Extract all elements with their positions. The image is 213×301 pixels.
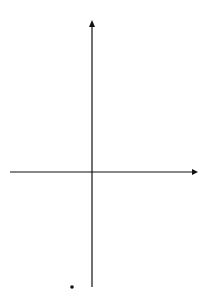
axes (10, 20, 198, 287)
y-axis-arrow-icon (89, 20, 95, 27)
curve-endpoint (70, 285, 74, 289)
cubic-graph (0, 0, 213, 301)
x-axis-arrow-icon (192, 169, 198, 175)
